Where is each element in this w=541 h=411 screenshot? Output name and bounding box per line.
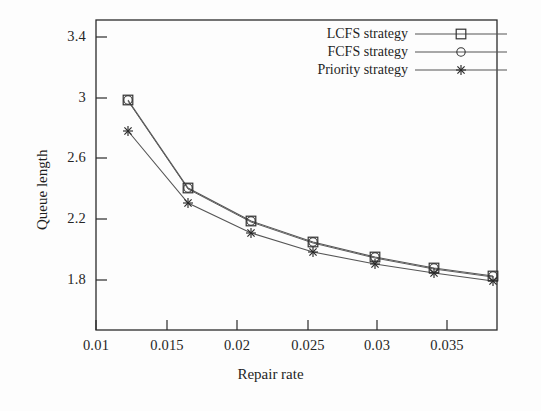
series-line-priority — [128, 131, 493, 281]
x-axis-title: Repair rate — [0, 366, 541, 383]
x-axis-ticks — [96, 320, 447, 330]
y-tick-label-4: 1.8 — [42, 271, 86, 288]
series-markers-lcfs — [123, 95, 498, 281]
x-tick-label-2: 0.02 — [207, 337, 267, 354]
chart-figure: 3.4 3 2.6 2.2 1.8 0.01 0.015 0.02 0.025 … — [0, 0, 541, 411]
y-axis-ticks — [96, 37, 107, 280]
legend-sample-priority — [415, 65, 507, 75]
legend-sample-fcfs — [415, 48, 507, 56]
x-tick-label-1: 0.015 — [137, 337, 197, 354]
series-markers-priority — [123, 126, 498, 286]
y-tick-label-0: 3.4 — [42, 28, 86, 45]
y-tick-label-1: 3 — [42, 89, 86, 106]
y-axis-title: Queue length — [34, 150, 51, 230]
legend-label-priority: Priority strategy — [288, 62, 408, 78]
legend-sample-lcfs — [415, 29, 507, 39]
legend-label-lcfs: LCFS strategy — [288, 26, 408, 42]
legend-label-fcfs: FCFS strategy — [288, 44, 408, 60]
x-tick-label-0: 0.01 — [66, 337, 126, 354]
x-tick-label-5: 0.035 — [417, 337, 477, 354]
x-tick-label-3: 0.025 — [278, 337, 338, 354]
x-tick-label-4: 0.03 — [347, 337, 407, 354]
